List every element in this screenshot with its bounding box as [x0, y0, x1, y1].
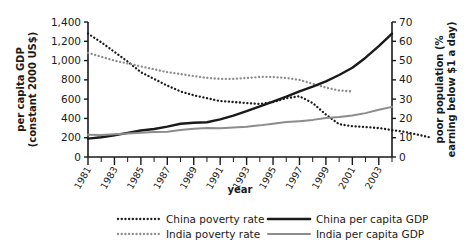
left-axis-tick-label: 1,400	[51, 16, 81, 28]
x-axis-tick-label: 1981	[72, 165, 94, 191]
right-axis-title-line1: poor population (%	[434, 35, 445, 143]
legend-item: India per capita GDP	[268, 228, 424, 240]
legend-label: China per capita GDP	[316, 213, 428, 225]
x-axis-tick-label: 2003	[362, 165, 384, 191]
left-axis-tick-label: 200	[61, 131, 81, 143]
left-axis-tick-label: 1,000	[51, 54, 81, 66]
left-axis-title-line2: (constant 2000 US$)	[27, 32, 38, 148]
left-axis: 02004006008001,0001,2001,400	[51, 16, 88, 163]
x-axis-tick-label: 2001	[336, 165, 358, 191]
legend-label: India poverty rate	[166, 228, 260, 240]
x-axis-title: year	[228, 184, 253, 195]
x-axis-tick-label: 1989	[177, 165, 199, 191]
x-axis-tick-label: 1983	[98, 165, 120, 191]
chart-legend: China poverty rateIndia poverty rateChin…	[118, 213, 428, 240]
series-line	[88, 34, 432, 138]
right-axis-tick-label: 50	[399, 54, 412, 66]
left-axis-title-line1: per capita GDP	[15, 47, 26, 131]
right-axis-tick-label: 70	[399, 16, 412, 28]
right-axis-tick-label: 0	[399, 151, 406, 163]
series-lines	[88, 34, 432, 139]
series-line	[88, 34, 392, 139]
x-axis-tick-label: 1985	[124, 165, 146, 191]
x-axis-tick-label: 1997	[283, 165, 305, 191]
legend-item: India poverty rate	[118, 228, 260, 240]
left-axis-tick-label: 800	[61, 73, 81, 85]
left-axis-tick-label: 600	[61, 93, 81, 105]
chart-canvas: 02004006008001,0001,2001,400 01020304050…	[0, 0, 470, 244]
x-axis-tick-label: 1995	[257, 165, 279, 191]
left-axis-tick-label: 1,200	[51, 35, 81, 47]
left-axis-tick-label: 400	[61, 112, 81, 124]
x-axis-tick-label: 1987	[151, 165, 173, 191]
legend-item: China poverty rate	[118, 213, 264, 225]
legend-label: China poverty rate	[166, 213, 264, 225]
right-axis-title-line2: earning below $1 a day)	[446, 21, 457, 157]
right-axis-tick-label: 20	[399, 112, 412, 124]
left-axis-tick-label: 0	[74, 151, 81, 163]
right-axis-tick-label: 40	[399, 73, 412, 85]
x-axis-tick-label: 1999	[310, 165, 332, 191]
right-axis-tick-label: 60	[399, 35, 412, 47]
x-axis-tick-label: 1991	[204, 165, 226, 191]
right-axis-tick-label: 30	[399, 93, 412, 105]
right-axis: 010203040506070	[392, 16, 412, 163]
legend-item: China per capita GDP	[268, 213, 428, 225]
legend-label: India per capita GDP	[316, 228, 424, 240]
chart-figure: 02004006008001,0001,2001,400 01020304050…	[0, 0, 470, 244]
